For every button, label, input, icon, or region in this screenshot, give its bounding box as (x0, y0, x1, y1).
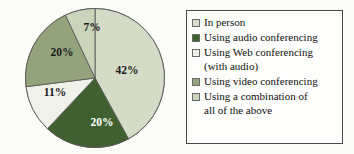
legend-item-combination[interactable]: Using a combination of all of the above (192, 89, 338, 117)
legend-label: Using video conferencing (204, 74, 318, 88)
pie-chart: 42% 20% 11% 20% 7% (22, 4, 172, 152)
legend-swatch-icon (192, 19, 200, 27)
legend-swatch-icon (192, 78, 200, 86)
pie-chart-figure: 42% 20% 11% 20% 7% In person Using audio… (0, 0, 354, 154)
legend-item-video-conferencing[interactable]: Using video conferencing (192, 74, 338, 88)
legend-label: Using audio conferencing (204, 30, 318, 44)
pie-label-7: 7% (83, 21, 100, 33)
legend-label: In person (204, 15, 245, 29)
legend-item-in-person[interactable]: In person (192, 15, 338, 29)
pie-label-20-video: 20% (51, 46, 74, 58)
pie-chart-svg: 42% 20% 11% 20% 7% (22, 4, 172, 152)
pie-label-20-audio: 20% (91, 116, 114, 128)
legend: In person Using audio conferencing Using… (186, 10, 343, 144)
legend-swatch-icon (192, 93, 200, 101)
legend-item-web-conferencing[interactable]: Using Web conferencing (with audio) (192, 45, 338, 73)
legend-swatch-icon (192, 49, 200, 57)
legend-swatch-icon (192, 34, 200, 42)
legend-item-audio-conferencing[interactable]: Using audio conferencing (192, 30, 338, 44)
pie-label-11: 11% (44, 86, 66, 98)
pie-label-42: 42% (116, 64, 139, 76)
legend-label: Using a combination of all of the above (204, 89, 308, 117)
legend-label: Using Web conferencing (with audio) (204, 45, 313, 73)
